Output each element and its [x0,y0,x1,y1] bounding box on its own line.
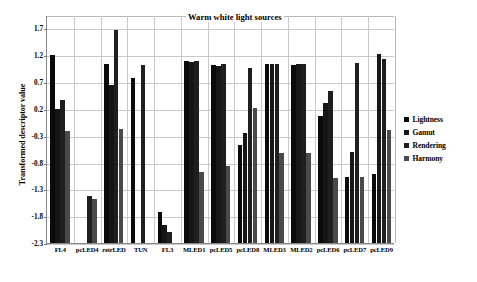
legend-item-harmony[interactable]: Harmony [404,152,446,165]
y-tick-label: 0.7 [13,79,43,87]
x-tick-label: pcLED6 [317,246,340,253]
bar-lightness [184,61,189,243]
legend-label: Rendering [413,141,446,150]
bar-harmony [253,108,258,243]
y-tick-label: -1.8 [13,213,43,221]
legend-item-gamut[interactable]: Gamut [404,126,446,139]
bar-lightness [158,212,163,243]
bar-gamut [189,62,194,243]
bar-rendering [114,30,119,244]
bar-harmony [199,172,204,243]
chart-title: Warm white light sources [186,12,284,22]
bars-layer [47,16,394,243]
y-tick-label: -1.3 [13,186,43,194]
bar-rendering [382,59,387,243]
x-tick-label: pcLED4 [76,246,99,253]
bar-group [315,16,342,243]
bar-rendering [141,65,146,243]
y-tick-label: 1.2 [13,52,43,60]
bar-lightness [104,64,109,243]
x-tick-label: pcLED9 [370,246,393,253]
bar-lightness [211,65,216,243]
bar-lightness [50,55,55,243]
bar-group [341,16,368,243]
bar-group [74,16,101,243]
bar-group [368,16,395,243]
bar-harmony [306,153,311,243]
legend-swatch-icon [404,156,409,161]
x-tick-label: pcLED7 [344,246,367,253]
legend-swatch-icon [404,130,409,135]
bar-rendering [87,196,92,243]
bar-rendering [301,64,306,243]
bar-lightness [291,65,296,243]
bar-group [127,16,154,243]
x-tick-label: MLED3 [263,246,285,253]
bar-rendering [167,232,172,243]
bar-lightness [372,174,377,243]
bar-group [101,16,128,243]
bar-rendering [194,61,199,243]
x-tick-label: MLED2 [290,246,312,253]
bar-rendering [328,91,333,243]
bar-gamut [109,85,114,243]
bar-gamut [270,64,275,243]
bar-gamut [377,54,382,243]
y-tick-label: -0.8 [13,160,43,168]
y-tick-label: 0.2 [13,106,43,114]
legend-item-lightness[interactable]: Lightness [404,113,446,126]
chart-legend: LightnessGamutRenderingHarmony [404,113,446,165]
x-tick-label: TUN [134,246,147,253]
y-tick-mark [44,244,47,245]
legend-item-rendering[interactable]: Rendering [404,139,446,152]
bar-harmony [226,166,231,243]
bar-gamut [323,103,328,243]
bar-rendering [275,64,280,243]
bar-group [261,16,288,243]
bar-gamut [216,66,221,243]
bar-harmony [387,130,392,243]
bar-gamut [55,109,60,243]
x-tick-label: retrLED [102,246,125,253]
y-tick-label: -0.3 [13,133,43,141]
bar-lightness [131,78,136,243]
bar-gamut [162,225,167,243]
bar-harmony [92,199,97,243]
y-tick-label: 1.7 [13,25,43,33]
legend-label: Harmony [413,154,444,163]
bar-rendering [355,63,360,243]
bar-rendering [248,68,253,243]
bar-group [154,16,181,243]
bar-harmony [333,178,338,243]
bar-gamut [296,64,301,243]
y-tick-label: -2.3 [13,240,43,248]
x-tick-label: FL4 [55,246,66,253]
x-tick-label: MLED1 [183,246,205,253]
bar-group [234,16,261,243]
x-tick-label: pcLED5 [210,246,233,253]
x-tick-label: pcLED8 [236,246,259,253]
bar-rendering [60,100,65,243]
bar-gamut [243,133,248,243]
legend-swatch-icon [404,143,409,148]
legend-label: Gamut [413,128,435,137]
bar-lightness [318,116,323,243]
bar-gamut [350,152,355,243]
legend-swatch-icon [404,117,409,122]
bar-harmony [360,177,365,243]
bar-rendering [221,64,226,243]
bar-group [181,16,208,243]
bar-harmony [279,153,284,243]
x-tick-label: FL3 [162,246,173,253]
bar-lightness [345,177,350,243]
plot-area: 1.71.20.70.2-0.3-0.8-1.3-1.8-2.3 FL4pcLE… [46,16,394,244]
bar-lightness [238,145,243,243]
bar-group [47,16,74,243]
legend-label: Lightness [413,115,443,124]
bar-harmony [65,131,70,243]
plot-right-border [395,16,396,243]
gridline-horizontal [47,244,394,245]
bar-group [208,16,235,243]
bar-chart: Transformed descriptor value Warm white … [0,0,477,282]
bar-group [288,16,315,243]
